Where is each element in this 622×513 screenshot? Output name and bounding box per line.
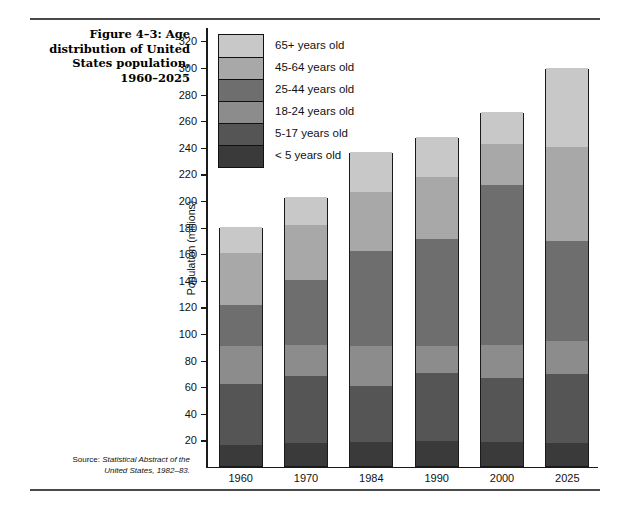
x-tick-label-1960: 1960 (228, 472, 252, 484)
bar-segment[interactable] (416, 373, 458, 441)
bar-group-1990[interactable] (415, 28, 459, 467)
chart-plot-area: 2040608010012014016018020022024026028030… (206, 28, 598, 468)
bar-segment[interactable] (416, 239, 458, 347)
bar-segment[interactable] (220, 305, 262, 346)
legend-swatch (219, 123, 263, 145)
bar-group-2000[interactable] (480, 28, 524, 467)
bar-segment[interactable] (220, 384, 262, 445)
bar-segment[interactable] (220, 346, 262, 383)
bar-group-1984[interactable] (349, 28, 393, 467)
bar-segment[interactable] (285, 376, 327, 444)
figure-title-line-3: States population, (14, 56, 190, 71)
bar-segment[interactable] (350, 442, 392, 466)
bar-segment[interactable] (416, 137, 458, 177)
stacked-bar-1960[interactable] (219, 228, 263, 467)
y-tick-label: 300 (179, 62, 197, 74)
bar-segment[interactable] (220, 253, 262, 305)
y-tick-label: 100 (179, 328, 197, 340)
bar-segment[interactable] (350, 386, 392, 442)
bar-segment[interactable] (481, 144, 523, 185)
legend-label: 5-17 years old (275, 122, 354, 144)
bar-segment[interactable] (285, 443, 327, 466)
bar-segment[interactable] (350, 192, 392, 251)
figure-title-line-1: Figure 4–3: Age (14, 27, 190, 42)
y-tick-label: 80 (185, 355, 197, 367)
y-tick-label: 120 (179, 301, 197, 313)
y-tick-label: 40 (185, 408, 197, 420)
bar-segment[interactable] (416, 441, 458, 466)
legend-label: 45-64 years old (275, 56, 354, 78)
bar-segment[interactable] (285, 225, 327, 280)
bar-group-2025[interactable] (545, 28, 589, 467)
stacked-bar-1970[interactable] (284, 198, 328, 467)
y-tick-label: 60 (185, 381, 197, 393)
figure-title-line-4: 1960–2025 (14, 71, 190, 86)
legend-swatch (219, 57, 263, 79)
bar-segment[interactable] (220, 227, 262, 254)
y-axis-title: Population (millions) (185, 201, 197, 296)
y-tick-label: 220 (179, 168, 197, 180)
x-tick-label-2000: 2000 (490, 472, 514, 484)
bar-segment[interactable] (350, 346, 392, 386)
bar-segment[interactable] (546, 374, 588, 443)
legend-label-column: 65+ years old45-64 years old25-44 years … (275, 34, 354, 166)
bar-segment[interactable] (285, 197, 327, 225)
stacked-bar-2000[interactable] (480, 113, 524, 467)
legend-swatch (219, 35, 263, 57)
bottom-rule (30, 489, 600, 491)
stacked-bar-1984[interactable] (349, 153, 393, 467)
source-title-line-2: United States, 1982–83. (14, 466, 190, 477)
x-tick-label-1970: 1970 (294, 472, 318, 484)
source-note: Source: Statistical Abstract of the Unit… (14, 455, 190, 476)
figure-page: Figure 4–3: Age distribution of United S… (0, 0, 622, 513)
bar-segment[interactable] (546, 68, 588, 146)
top-rule (30, 18, 600, 20)
legend-label: 65+ years old (275, 34, 354, 56)
stacked-bar-1990[interactable] (415, 138, 459, 467)
bar-segment[interactable] (416, 346, 458, 373)
legend-label: 18-24 years old (275, 100, 354, 122)
y-tick-label: 280 (179, 89, 197, 101)
bar-segment[interactable] (481, 345, 523, 378)
bar-segment[interactable] (481, 442, 523, 466)
source-title-line-1: Statistical Abstract of the (102, 455, 190, 464)
bar-segment[interactable] (220, 445, 262, 466)
x-tick-label-1990: 1990 (424, 472, 448, 484)
source-line-1: Source: Statistical Abstract of the (14, 455, 190, 466)
x-tick-label-1984: 1984 (359, 472, 383, 484)
y-tick-label: 240 (179, 142, 197, 154)
bar-segment[interactable] (481, 378, 523, 442)
legend-swatch-column (218, 34, 264, 168)
bar-segment[interactable] (350, 251, 392, 347)
legend-label: < 5 years old (275, 144, 354, 166)
bar-segment[interactable] (481, 185, 523, 345)
bar-segment[interactable] (285, 280, 327, 345)
bar-segment[interactable] (350, 152, 392, 192)
bar-segment[interactable] (546, 241, 588, 341)
y-tick-label: 260 (179, 115, 197, 127)
legend-label: 25-44 years old (275, 78, 354, 100)
bar-segment[interactable] (546, 147, 588, 241)
stacked-bar-2025[interactable] (545, 69, 589, 467)
x-tick-label-2025: 2025 (555, 472, 579, 484)
bars-container (206, 28, 598, 467)
y-tick-label: 320 (179, 35, 197, 47)
figure-title-line-2: distribution of United (14, 42, 190, 57)
figure-title: Figure 4–3: Age distribution of United S… (14, 27, 190, 85)
y-tick-label: 20 (185, 434, 197, 446)
bar-segment[interactable] (546, 443, 588, 466)
bar-segment[interactable] (416, 177, 458, 238)
bar-segment[interactable] (481, 112, 523, 144)
bar-segment[interactable] (546, 341, 588, 374)
legend-swatch (219, 101, 263, 123)
legend-swatch (219, 79, 263, 101)
legend-swatch (219, 145, 263, 167)
source-label: Source: (72, 455, 100, 464)
bar-segment[interactable] (285, 345, 327, 376)
